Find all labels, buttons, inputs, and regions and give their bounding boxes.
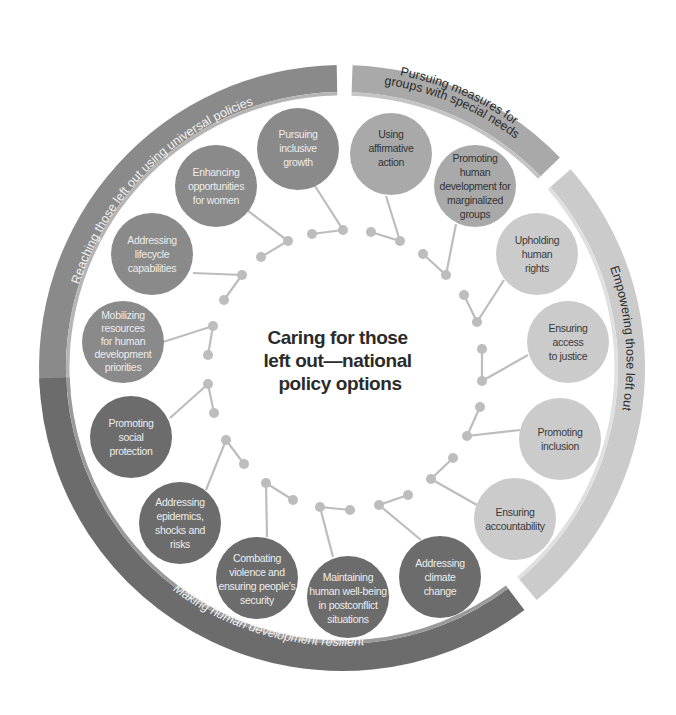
node-mobilizing-resources: Mobilizingresourcesfor humandevelopmentp… [82, 301, 164, 383]
policy-options-diagram: Reaching those left out using universal … [0, 0, 676, 715]
node-addressing-climate-change: Addressingclimatechange [399, 536, 481, 618]
node-pursuing-inclusive-growth: Pursuinginclusivegrowth [257, 108, 339, 190]
node-upholding-human-rights: Upholdinghumanrights [496, 213, 578, 295]
node-addressing-epidemics: Addressingepidemics,shocks andrisks [139, 482, 221, 564]
svg-text:Ensuringaccessto justice: Ensuringaccessto justice [548, 322, 588, 362]
svg-text:Enhancingopportunitiesfor wome: Enhancingopportunitiesfor women [188, 166, 244, 206]
node-using-affirmative-action: Usingaffirmativeaction [350, 113, 432, 195]
node-ensuring-accountability: Ensuringaccountability [474, 478, 556, 560]
node-promoting-inclusion: Promotinginclusion [519, 398, 601, 480]
node-maintaining-human-well-being: Maintaininghuman well-beingin postconfli… [307, 556, 389, 638]
node-promoting-social-protection: Promotingsocialprotection [90, 396, 172, 478]
svg-text:Pursuinginclusivegrowth: Pursuinginclusivegrowth [278, 128, 318, 168]
node-ensuring-access-to-justice: Ensuringaccessto justice [527, 301, 609, 383]
node-enhancing-opportunities-for-women: Enhancingopportunitiesfor women [175, 145, 257, 227]
connectors [163, 186, 528, 557]
node-addressing-lifecycle-capabilities: Addressinglifecyclecapabilities [111, 213, 193, 295]
node-promoting-human-development-marginalized: Promotinghumandevelopment formarginalize… [434, 145, 516, 227]
node-combating-violence: Combatingviolence andensuring people’sse… [216, 537, 298, 619]
diagram-title: Caring for those left out—national polic… [263, 327, 416, 394]
